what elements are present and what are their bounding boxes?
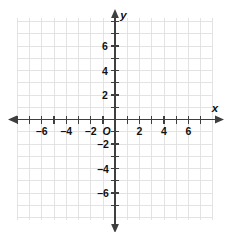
x-tick-label--2: –2 <box>85 126 97 137</box>
y-axis-label: y <box>120 10 126 22</box>
coordinate-plane-figure: –6 –4 –2 2 4 6 6 4 2 –2 –4 –6 O x y <box>0 0 228 232</box>
y-tick-label-2: 2 <box>102 90 108 101</box>
plot-background <box>0 0 228 232</box>
y-tick-label--6: –6 <box>97 188 109 199</box>
x-tick-label-6: 6 <box>186 126 192 137</box>
y-tick-label-6: 6 <box>102 41 108 52</box>
coordinate-plane-svg <box>0 0 228 232</box>
y-tick-label--2: –2 <box>97 139 109 150</box>
y-tick-label-4: 4 <box>102 65 108 76</box>
x-tick-label--4: –4 <box>60 126 72 137</box>
x-tick-label-4: 4 <box>161 126 167 137</box>
x-tick-label-2: 2 <box>137 126 143 137</box>
y-tick-label--4: –4 <box>97 163 109 174</box>
origin-label: O <box>102 125 110 136</box>
x-axis-label: x <box>212 103 218 115</box>
x-tick-label--6: –6 <box>36 126 48 137</box>
